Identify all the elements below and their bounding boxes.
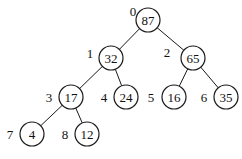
node-index-label: 2 (164, 45, 171, 60)
node-index-label: 3 (46, 90, 53, 105)
node-value: 16 (168, 90, 182, 105)
tree-edge (80, 66, 103, 88)
node-index-label: 0 (130, 4, 137, 19)
node-value: 4 (29, 127, 36, 142)
node-value: 17 (65, 90, 79, 105)
node-index-label: 5 (148, 90, 155, 105)
tree-node: 47 (7, 122, 44, 146)
node-value: 12 (81, 127, 94, 142)
node-index-label: 4 (101, 90, 108, 105)
tree-edge (115, 69, 121, 86)
tree-edge (157, 28, 184, 51)
heap-tree-diagram: 87032165217324416535647128 (0, 0, 242, 159)
node-index-label: 7 (7, 127, 14, 142)
node-index-label: 6 (201, 90, 208, 105)
tree-node: 356 (201, 85, 238, 109)
tree-node: 128 (62, 122, 99, 146)
tree-edge (41, 105, 63, 125)
tree-node: 165 (148, 85, 186, 109)
node-value: 32 (105, 51, 118, 66)
tree-node: 244 (101, 85, 138, 109)
node-value: 35 (220, 90, 233, 105)
node-value: 65 (187, 51, 200, 66)
tree-node: 173 (46, 85, 83, 109)
tree-edge (201, 67, 218, 88)
tree-edge (119, 29, 139, 50)
node-value: 87 (142, 13, 156, 28)
tree-edges (41, 28, 219, 126)
tree-node: 870 (130, 4, 160, 33)
node-value: 24 (120, 90, 134, 105)
tree-node: 652 (164, 45, 205, 71)
node-index-label: 8 (62, 127, 69, 142)
tree-edge (76, 108, 82, 123)
tree-node: 321 (87, 46, 123, 71)
node-index-label: 1 (87, 46, 94, 61)
tree-edge (179, 69, 187, 86)
